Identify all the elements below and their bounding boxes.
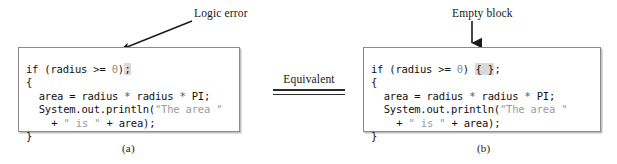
code-token: System.out.println(	[384, 103, 500, 115]
code-line: + " is " + area);	[371, 117, 596, 131]
code-token: if (radius >=	[26, 63, 112, 75]
code-line: System.out.println("The area "	[371, 103, 596, 117]
code-line: if (radius >= 0) { };	[371, 63, 596, 77]
code-token: }	[371, 130, 377, 142]
code-token: }	[26, 130, 32, 142]
code-text-a: if (radius >= 0);{area = radius * radius…	[26, 63, 235, 145]
code-token: PI;	[186, 90, 211, 102]
code-token: )	[463, 63, 475, 75]
code-line: {	[371, 76, 596, 90]
code-token: "The area "	[155, 103, 222, 115]
code-token: + area);	[100, 117, 155, 129]
code-token: {	[26, 76, 32, 88]
equals-bar-top	[273, 89, 345, 91]
logic-error-label: Logic error	[194, 7, 248, 20]
equivalent-label: Equivalent	[262, 73, 356, 86]
code-token: {	[371, 76, 377, 88]
code-line: area = radius * radius * PI;	[26, 90, 235, 104]
code-token: " is "	[64, 117, 101, 129]
code-token: System.out.println(	[39, 103, 155, 115]
code-token: if (radius >=	[371, 63, 457, 75]
code-token: radius	[475, 90, 524, 102]
highlighted-token: { }	[475, 63, 494, 75]
code-token: radius	[130, 90, 179, 102]
subfigure-caption-a: (a)	[122, 142, 135, 154]
code-token: " is "	[409, 117, 446, 129]
figure-root: Logic error Empty block if (radius >= 0)…	[0, 0, 617, 164]
highlighted-token: ;	[124, 63, 131, 75]
code-line: if (radius >= 0);	[26, 63, 235, 77]
code-token: +	[396, 117, 408, 129]
code-token: area = radius	[384, 90, 470, 102]
code-block-b: if (radius >= 0) { };{area = radius * ra…	[363, 47, 601, 132]
code-token: + area);	[445, 117, 500, 129]
code-text-b: if (radius >= 0) { };{area = radius * ra…	[371, 63, 596, 145]
equals-bar-bottom	[273, 94, 345, 96]
code-block-a: if (radius >= 0);{area = radius * radius…	[18, 47, 240, 132]
code-token: "The area "	[500, 103, 567, 115]
subfigure-caption-b: (b)	[477, 142, 490, 154]
equals-symbol-icon	[273, 89, 345, 95]
code-line: + " is " + area);	[26, 117, 235, 131]
code-token: +	[51, 117, 63, 129]
code-token: ;	[494, 63, 500, 75]
code-line: System.out.println("The area "	[26, 103, 235, 117]
code-line: area = radius * radius * PI;	[371, 90, 596, 104]
code-token: PI;	[531, 90, 556, 102]
equivalence-marker: Equivalent	[262, 73, 356, 95]
code-line: {	[26, 76, 235, 90]
code-token: area = radius	[39, 90, 125, 102]
empty-block-label: Empty block	[452, 7, 513, 20]
